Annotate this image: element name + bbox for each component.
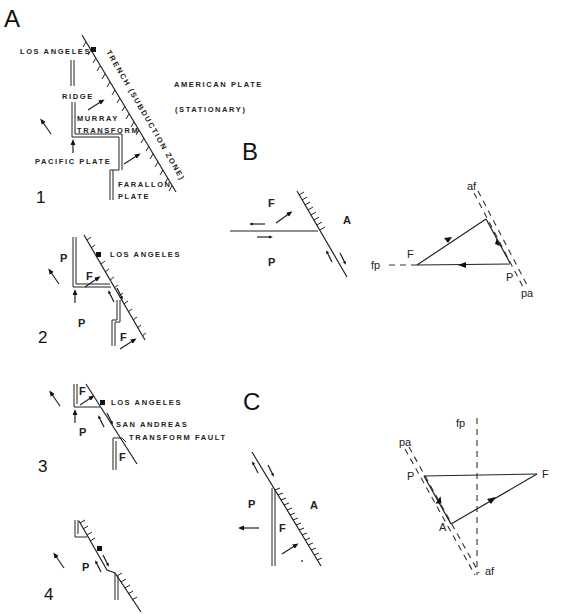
- arrow-pacific-motion-icon: [42, 121, 51, 134]
- label-transform: TRANSFORM: [77, 126, 139, 135]
- arrow-farallon-motion-icon: [276, 213, 290, 223]
- arrow-farallon-motion-icon: [80, 397, 92, 405]
- panel-c-vector-triangle: fp pa P A F af: [399, 417, 549, 577]
- label-f-upper-3: F: [79, 385, 86, 397]
- panel-letter-b: B: [242, 138, 258, 165]
- label-a-c: A: [310, 499, 318, 511]
- vector-arrow-icon: [458, 262, 466, 268]
- vector-pa: [424, 476, 451, 524]
- arrow-shear-up-icon: [99, 417, 104, 427]
- af-pa-locus-line: [474, 193, 523, 287]
- label-fp-b: fp: [371, 259, 380, 271]
- label-p-lower-2: P: [78, 317, 85, 329]
- label-los-angeles-2: LOS ANGELES: [110, 250, 181, 259]
- label-f-upper-2: F: [86, 270, 93, 282]
- label-p-3: P: [79, 426, 86, 438]
- panel-c-map: P F A: [241, 452, 322, 566]
- label-murray: MURRAY: [77, 114, 119, 123]
- label-plate: PLATE: [118, 192, 150, 201]
- panel-a2: 2 LOS ANGELES P P F F: [38, 235, 181, 349]
- arrow-shear-up-icon: [253, 463, 258, 473]
- vector-pf: [424, 474, 537, 476]
- los-angeles-marker-2: [96, 252, 101, 257]
- step-number-1: 1: [36, 188, 45, 207]
- arrow-pacific-motion-icon: [50, 271, 59, 284]
- arrow-shear-up-icon: [96, 562, 101, 572]
- plate-tectonics-figure: A 1 LOS ANGELES TRENCH (SUBDUCTION ZONE)…: [0, 0, 564, 614]
- label-f-lower-3: F: [119, 451, 126, 463]
- arrow-shear-down-icon: [340, 253, 345, 263]
- trench-ticks-b: [299, 192, 325, 230]
- label-stationary: (STATIONARY): [175, 105, 247, 114]
- step-number-2: 2: [38, 328, 47, 347]
- label-f-b: F: [268, 197, 275, 209]
- label-san-andreas: SAN ANDREAS: [116, 420, 188, 429]
- label-f-vec-b: F: [407, 248, 414, 260]
- label-los-angeles-3: LOS ANGELES: [111, 398, 182, 407]
- label-pacific-plate: PACIFIC PLATE: [35, 157, 111, 166]
- panel-b-map: F P A: [230, 191, 351, 277]
- label-los-angeles-1: LOS ANGELES: [20, 47, 91, 56]
- label-af-c: af: [485, 565, 495, 577]
- af-pa-locus-line-2: [478, 191, 527, 285]
- panel-b-vector-triangle: af fp pa F P: [371, 180, 534, 299]
- panel-letter-c: C: [243, 388, 260, 415]
- label-p-4: P: [82, 561, 89, 573]
- label-af-b: af: [467, 180, 477, 192]
- step-number-3: 3: [38, 457, 47, 476]
- label-fp-c: fp: [456, 417, 465, 429]
- step-number-4: 4: [44, 585, 53, 604]
- arrow-farallon-motion-icon: [88, 101, 102, 110]
- arrow-farallon-motion-icon-2: [124, 155, 138, 164]
- pa-af-locus-line-2: [409, 447, 479, 573]
- arrow-pacific-motion-icon: [51, 393, 60, 406]
- label-p-c: P: [248, 498, 255, 510]
- los-angeles-marker-4: [97, 546, 102, 551]
- label-pa-b: pa: [521, 287, 534, 299]
- label-a-vec-c: A: [439, 521, 447, 533]
- label-f-vec-c: F: [542, 468, 549, 480]
- label-p-vec-c: P: [407, 470, 414, 482]
- panel-a4: 4 P: [44, 520, 141, 612]
- label-p-vec-b: P: [506, 271, 513, 283]
- label-p-b: P: [268, 256, 275, 268]
- label-farallon: FARALLON: [118, 180, 172, 189]
- los-angeles-marker-3: [100, 400, 105, 405]
- arrow-shear-up-icon: [327, 252, 332, 262]
- arrow-pacific-motion-icon: [55, 555, 64, 568]
- arrow-shear-down-icon: [268, 465, 273, 475]
- pa-af-locus-line: [405, 449, 475, 575]
- label-american-plate: AMERICAN PLATE: [174, 80, 263, 89]
- panel-letter-a: A: [4, 5, 20, 32]
- label-p-upper-2: P: [60, 252, 67, 264]
- label-ridge: RIDGE: [62, 92, 94, 101]
- label-pa-c: pa: [399, 436, 412, 448]
- label-f-lower-2: F: [120, 331, 127, 343]
- arrow-shear-up-icon: [109, 292, 114, 302]
- label-transform-fault: TRANSFORM FAULT: [129, 433, 227, 442]
- panel-a3: 3 LOS ANGELES SAN ANDREAS TRANSFORM FAUL…: [38, 384, 227, 476]
- arrow-farallon-motion-icon: [282, 545, 296, 554]
- ridge-segment-c: [272, 488, 275, 566]
- trench-line-b: [297, 191, 347, 277]
- dot-mark: [301, 560, 303, 562]
- panel-a1: 1 LOS ANGELES TRENCH (SUBDUCTION ZONE) A…: [20, 35, 263, 207]
- label-f-c: F: [279, 522, 286, 534]
- vector-fa: [417, 219, 486, 265]
- label-a-b: A: [343, 214, 351, 226]
